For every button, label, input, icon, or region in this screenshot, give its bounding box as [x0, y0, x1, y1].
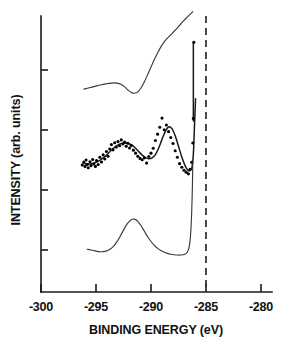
data-point [145, 162, 148, 165]
data-point [171, 142, 174, 145]
data-point [191, 141, 194, 144]
middle-fitted-curve [83, 99, 196, 171]
data-point [107, 155, 110, 158]
data-point [167, 130, 170, 133]
x-tick-label: -280 [249, 300, 273, 314]
data-point [81, 163, 84, 166]
data-point [174, 149, 177, 152]
data-point [116, 140, 119, 143]
data-point [154, 139, 157, 142]
data-point [115, 146, 118, 149]
data-point [152, 147, 155, 150]
data-point [118, 144, 121, 147]
spectrum-plot: -300 -295 -290 -285 -280 BINDING ENERGY … [0, 0, 284, 345]
top-spectrum-curve [84, 12, 193, 94]
data-point [132, 149, 135, 152]
data-point [134, 152, 137, 155]
xps-spectrum-figure: -300 -295 -290 -285 -280 BINDING ENERGY … [0, 0, 284, 345]
x-axis-title: BINDING ENERGY (eV) [89, 323, 223, 337]
data-point [108, 147, 111, 150]
data-point [110, 143, 113, 146]
x-tick-label: -295 [84, 300, 108, 314]
data-point [178, 162, 181, 165]
data-point [163, 128, 166, 131]
data-point [165, 123, 168, 126]
data-point [90, 164, 93, 167]
data-point [120, 138, 123, 141]
data-point [94, 165, 97, 168]
data-point [102, 153, 105, 156]
data-point [147, 155, 150, 158]
y-axis-title: INTENSITY (arb. units) [9, 95, 23, 226]
bottom-spectrum-curve [87, 162, 193, 255]
data-point [87, 166, 90, 169]
data-point [189, 168, 192, 171]
data-point [97, 163, 100, 166]
data-point [143, 156, 146, 159]
data-point [100, 160, 103, 163]
data-point [105, 150, 108, 153]
data-point [112, 148, 115, 151]
data-point [113, 141, 116, 144]
data-point [88, 160, 91, 163]
data-point [192, 41, 195, 44]
data-point [169, 136, 172, 139]
data-point [125, 145, 128, 148]
data-point [136, 155, 139, 158]
data-point [160, 117, 163, 120]
data-point [86, 163, 89, 166]
middle-data-point-group [81, 41, 196, 176]
data-point [95, 159, 98, 162]
data-point [156, 133, 159, 136]
data-point [176, 156, 179, 159]
data-point [91, 158, 94, 161]
x-tick-label: -300 [29, 300, 53, 314]
data-point [149, 152, 152, 155]
data-point [123, 141, 126, 144]
data-point [103, 157, 106, 160]
data-point [192, 117, 195, 120]
data-point [130, 144, 133, 147]
y-axis-ticks [41, 70, 48, 250]
data-point [187, 172, 190, 175]
data-point [158, 126, 161, 129]
data-point [180, 166, 183, 169]
data-point [98, 156, 101, 159]
x-tick-label: -290 [139, 300, 163, 314]
x-tick-label: -285 [194, 300, 218, 314]
data-point [85, 159, 88, 162]
x-axis-ticks [41, 284, 261, 292]
data-point [126, 142, 129, 145]
